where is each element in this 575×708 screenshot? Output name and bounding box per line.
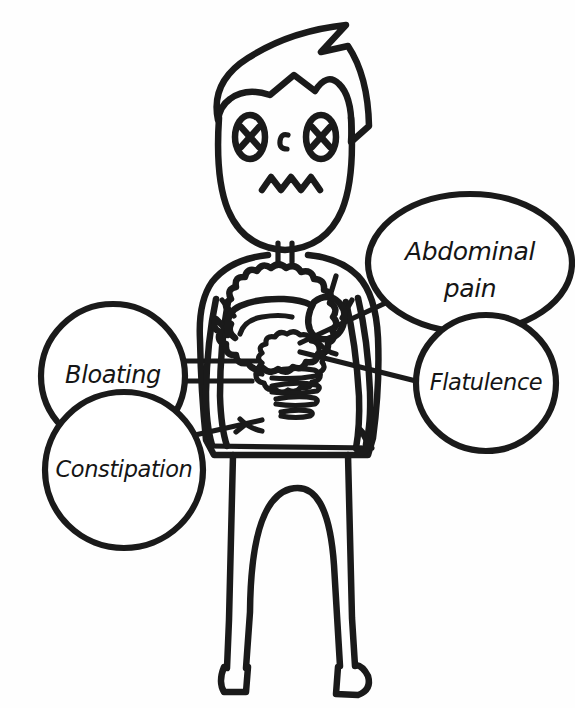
abdomen-organs (214, 265, 344, 433)
foot-right (336, 665, 369, 695)
cartoon-line-art: Abdominal pain Flatulence Bloating Const… (0, 0, 575, 708)
mouth (262, 177, 320, 190)
bubble-flatulence[interactable]: Flatulence (416, 315, 556, 451)
bubble-label-bloating: Bloating (65, 361, 161, 389)
nose (280, 135, 288, 149)
bubble-label-constipation: Constipation (56, 456, 193, 482)
eye-right (306, 115, 336, 159)
eye-left (235, 115, 265, 159)
bubble-abdominal-pain[interactable]: Abdominal pain (368, 194, 572, 332)
liver (227, 299, 311, 335)
bubble-label-flatulence: Flatulence (430, 369, 543, 395)
foot-left (221, 667, 248, 692)
bubble-label-abdominal-pain-line2: pain (443, 274, 496, 303)
legs (227, 455, 355, 668)
bubble-constipation[interactable]: Constipation (45, 392, 203, 548)
bubble-label-abdominal-pain-line1: Abdominal (403, 237, 535, 266)
figure-root: Abdominal pain Flatulence Bloating Const… (0, 0, 575, 708)
